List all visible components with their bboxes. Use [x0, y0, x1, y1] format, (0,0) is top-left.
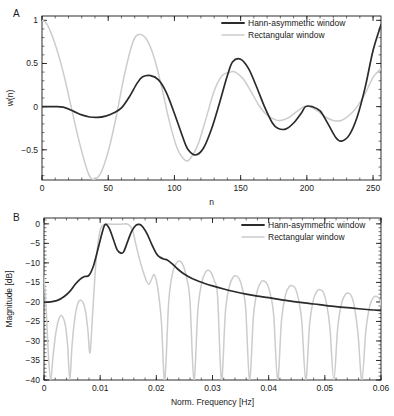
x-tick-label: 0.03: [204, 383, 221, 393]
legend-label-1: Hann-asymmetric window: [248, 18, 346, 28]
y-tick-label: −0.5: [21, 145, 38, 155]
legend-label-2: Rectangular window: [248, 30, 325, 40]
x-tick-label: 250: [366, 183, 380, 193]
y-tick-label: −40: [26, 375, 41, 385]
y-tick-label: 0: [33, 102, 38, 112]
curves-group: [44, 224, 381, 380]
series-line-2: [42, 20, 381, 179]
y-tick-label: −5: [30, 238, 40, 248]
x-tick-label: 0.04: [260, 383, 277, 393]
panel-a: A 05010015020025010.50−0.5nw(n)Hann-asym…: [0, 0, 394, 208]
y-tick-label: −20: [26, 297, 41, 307]
panel-a-plot: 05010015020025010.50−0.5nw(n)Hann-asymme…: [0, 0, 394, 208]
y-tick-label: −35: [26, 355, 41, 365]
y-axis-title: w(n): [5, 90, 15, 108]
y-tick-label: 1: [33, 15, 38, 25]
y-tick-label: −30: [26, 336, 41, 346]
window-function-figure: A 05010015020025010.50−0.5nw(n)Hann-asym…: [0, 0, 394, 416]
y-tick-label: 0: [35, 219, 40, 229]
curves-group: [42, 20, 381, 179]
x-tick-label: 150: [234, 183, 248, 193]
x-axis-title: Norm. Frequency [Hz]: [171, 397, 254, 407]
x-tick-label: 0.02: [148, 383, 165, 393]
x-tick-label: 0.01: [92, 383, 109, 393]
x-tick-label: 0: [40, 183, 45, 193]
y-tick-label: −15: [26, 277, 41, 287]
series-line-2: [44, 224, 381, 380]
y-tick-label: 0.5: [26, 58, 38, 68]
x-tick-label: 0.06: [373, 383, 390, 393]
x-tick-label: 0.05: [317, 383, 334, 393]
legend-label-1: Hann-asymmetric window: [268, 220, 366, 230]
panel-b-plot: 00.010.020.030.040.050.060−5−10−15−20−25…: [0, 208, 394, 416]
x-tick-label: 0: [42, 383, 47, 393]
y-tick-label: −10: [26, 258, 41, 268]
x-tick-label: 50: [103, 183, 113, 193]
x-tick-label: 100: [167, 183, 181, 193]
series-line-1: [42, 25, 381, 155]
x-tick-label: 200: [300, 183, 314, 193]
plot-frame: [44, 218, 381, 380]
y-tick-label: −25: [26, 316, 41, 326]
legend-label-2: Rectangular window: [268, 232, 345, 242]
y-axis-title: Magnitude [dB]: [4, 270, 14, 327]
x-axis-title: n: [209, 197, 214, 207]
panel-b: B 00.010.020.030.040.050.060−5−10−15−20−…: [0, 208, 394, 416]
